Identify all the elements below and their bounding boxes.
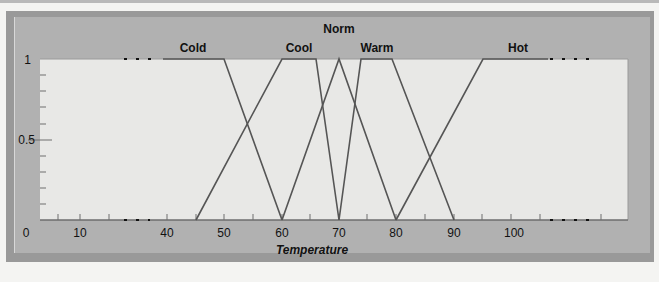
label-cold: Cold — [180, 41, 207, 55]
y-tick-0-5: 0.5 — [18, 133, 35, 147]
label-hot: Hot — [508, 41, 528, 55]
plot-area — [40, 59, 628, 220]
label-norm: Norm — [323, 22, 354, 36]
x-tick-80: 80 — [389, 226, 403, 240]
x-tick-0: 0 — [23, 226, 30, 240]
x-tick-60: 60 — [275, 226, 289, 240]
label-warm: Warm — [361, 41, 394, 55]
label-cool: Cool — [286, 41, 313, 55]
x-axis-title: Temperature — [276, 243, 349, 257]
x-tick-70: 70 — [332, 226, 346, 240]
y-tick-1: 1 — [24, 53, 31, 67]
x-tick-100: 100 — [504, 226, 524, 240]
x-tick-10: 10 — [73, 226, 87, 240]
x-tick-50: 50 — [217, 226, 231, 240]
membership-chart: Cold Cool Norm Warm Hot 1 0.5 0 10 40 50… — [0, 0, 659, 282]
x-tick-40: 40 — [160, 226, 174, 240]
x-tick-90: 90 — [447, 226, 461, 240]
